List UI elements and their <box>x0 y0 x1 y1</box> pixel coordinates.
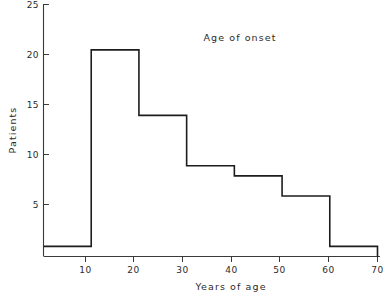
chart-canvas: 25 20 15 10 5 10 20 30 40 50 60 70 Years… <box>0 0 391 300</box>
y-tick-label-15: 15 <box>27 100 39 110</box>
x-tick-label-10: 10 <box>79 265 91 275</box>
x-tick-label-70: 70 <box>371 265 383 275</box>
y-axis-title: Patients <box>7 107 18 154</box>
y-tick-label-25: 25 <box>27 0 39 10</box>
x-axis-title: Years of age <box>194 281 266 292</box>
x-tick-label-20: 20 <box>127 265 139 275</box>
x-tick-label-30: 30 <box>176 265 188 275</box>
y-tick-label-20: 20 <box>27 50 39 60</box>
y-tick-label-5: 5 <box>33 200 39 210</box>
x-tick-label-50: 50 <box>273 265 285 275</box>
x-tick-label-60: 60 <box>322 265 334 275</box>
histogram-figure: 25 20 15 10 5 10 20 30 40 50 60 70 Years… <box>0 0 391 300</box>
chart-title: Age of onset <box>203 32 276 43</box>
histogram-step-outline <box>44 50 378 257</box>
x-tick-label-40: 40 <box>225 265 237 275</box>
y-tick-label-10: 10 <box>27 150 39 160</box>
